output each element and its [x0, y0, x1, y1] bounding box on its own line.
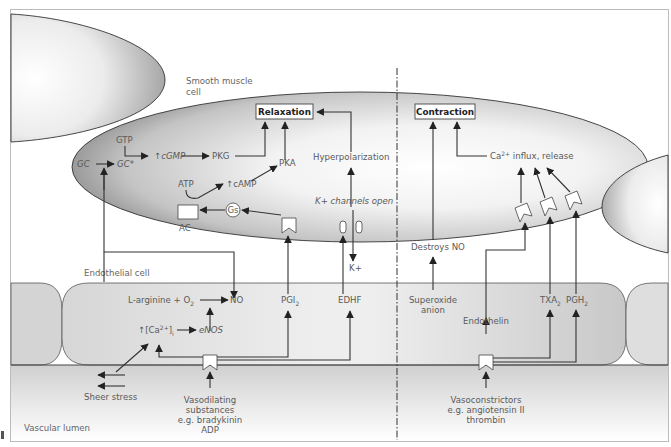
smooth-muscle-cell-label-line2: cell	[186, 87, 201, 97]
k-channel-right	[356, 221, 362, 233]
destroys-no-label: Destroys NO	[411, 242, 465, 252]
figure-tab-marker	[1, 431, 4, 439]
sheer-stress-label: Sheer stress	[84, 392, 138, 402]
superoxide-label-line2: anion	[421, 305, 445, 315]
no-label: NO	[230, 295, 243, 305]
adenylyl-cyclase-box	[178, 205, 198, 219]
k-ion-label: K+	[349, 263, 362, 273]
cgmp-label: ↑cGMP	[154, 151, 186, 161]
gtp-label: GTP	[116, 135, 133, 145]
vascular-lumen-label: Vascular lumen	[24, 423, 90, 433]
svg-text:Vasodilating: Vasodilating	[184, 395, 236, 405]
superoxide-label-line1: Superoxide	[409, 295, 457, 305]
ac-label: AC	[179, 223, 191, 233]
pka-label: PKA	[279, 158, 296, 168]
svg-text:thrombin: thrombin	[466, 415, 505, 425]
endothelium-regulation-diagram: Smooth muscle cell Endothelial cell Vasc…	[0, 0, 671, 447]
vascular-lumen-region	[11, 365, 668, 441]
relaxation-label: Relaxation	[258, 107, 311, 117]
gc-active-label: GC*	[117, 159, 135, 169]
k-channel-left	[340, 221, 346, 233]
smooth-muscle-cell-label-line1: Smooth muscle	[186, 76, 253, 86]
contraction-label: Contraction	[416, 107, 474, 117]
svg-text:substances: substances	[186, 405, 235, 415]
atp-label: ATP	[178, 179, 194, 189]
k-channels-label: K+ channels open	[315, 196, 393, 206]
svg-text:e.g. bradykinin: e.g. bradykinin	[178, 415, 242, 425]
enos-label: eNOS	[199, 325, 223, 335]
hyperpolarization-label: Hyperpolarization	[313, 152, 389, 162]
gc-label: GC	[77, 159, 90, 169]
pkg-label: PKG	[212, 151, 229, 161]
svg-text:Vasoconstrictors: Vasoconstrictors	[451, 395, 522, 405]
svg-text:ADP: ADP	[201, 425, 219, 435]
endothelial-cell-label: Endothelial cell	[84, 268, 150, 278]
smooth-muscle-cell-main	[72, 92, 648, 242]
svg-text:e.g. angiotensin II: e.g. angiotensin II	[448, 405, 525, 415]
edhf-label: EDHF	[338, 295, 362, 305]
endothelin-label: Endothelin	[463, 316, 509, 326]
gs-label: Gs	[227, 205, 239, 215]
